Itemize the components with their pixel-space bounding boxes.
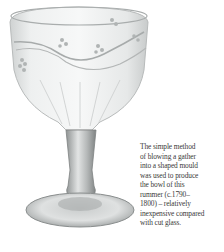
figure-caption: The simple method of blowing a gather in… xyxy=(140,142,224,228)
caption-line: 1800) – relatively xyxy=(140,199,224,209)
rummer-glass-photo xyxy=(0,0,160,252)
caption-line: of blowing a gather xyxy=(140,152,224,162)
caption-line: inexpensive compared xyxy=(140,209,224,219)
caption-line: with cut glass. xyxy=(140,218,224,228)
caption-line: The simple method xyxy=(140,142,224,152)
caption-line: the bowl of this xyxy=(140,180,224,190)
caption-line: into a shaped mould xyxy=(140,161,224,171)
glass-illustration xyxy=(0,0,160,252)
caption-line: was used to produce xyxy=(140,171,224,181)
caption-line: rummer (c.1790– xyxy=(140,190,224,200)
